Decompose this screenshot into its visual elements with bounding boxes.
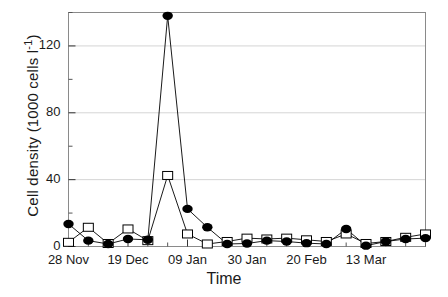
- data-point-circle: [182, 205, 192, 213]
- data-point-square: [202, 240, 212, 248]
- data-point-square: [83, 223, 93, 231]
- plot-frame: [69, 13, 426, 247]
- data-point-circle: [341, 225, 351, 233]
- x-tick-label: 13 Mar: [326, 252, 406, 267]
- y-tick-label: 120: [21, 37, 61, 52]
- data-point-circle: [202, 223, 212, 231]
- series-line-filled-circle-series: [69, 16, 426, 246]
- data-point-circle: [162, 12, 172, 20]
- data-point-circle: [262, 236, 272, 244]
- data-point-square: [163, 171, 173, 179]
- y-tick-label: 80: [21, 104, 61, 119]
- data-point-circle: [123, 235, 133, 243]
- data-point-circle: [83, 236, 93, 244]
- y-tick-label: 0: [21, 238, 61, 253]
- data-point-square: [64, 238, 74, 246]
- chart-figure: Cell density (1000 cells l-1) Time 04080…: [0, 0, 448, 297]
- data-point-circle: [63, 220, 73, 228]
- data-point-circle: [103, 240, 113, 248]
- y-axis-title-main: Cell density (1000 cells l: [24, 50, 41, 217]
- data-point-circle: [361, 241, 371, 249]
- data-point-circle: [301, 239, 311, 247]
- y-tick-label: 40: [21, 171, 61, 186]
- data-point-square: [123, 225, 133, 233]
- data-point-circle: [143, 236, 153, 244]
- data-point-circle: [321, 240, 331, 248]
- data-point-circle: [420, 234, 430, 242]
- data-point-circle: [281, 237, 291, 245]
- data-point-circle: [222, 240, 232, 248]
- data-point-square: [183, 230, 193, 238]
- data-point-circle: [242, 239, 252, 247]
- x-axis-title: Time: [0, 270, 448, 288]
- data-point-circle: [381, 237, 391, 245]
- data-point-circle: [400, 235, 410, 243]
